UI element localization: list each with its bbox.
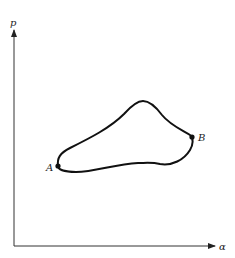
cycle-curve	[58, 101, 193, 172]
p-alpha-diagram: p α A B	[0, 0, 235, 258]
y-axis-label: p	[10, 17, 17, 28]
point-a-marker	[55, 163, 60, 168]
point-b-label: B	[197, 132, 205, 143]
point-a-label: A	[45, 162, 53, 173]
x-axis-label: α	[219, 241, 226, 252]
point-b-marker	[189, 134, 194, 139]
